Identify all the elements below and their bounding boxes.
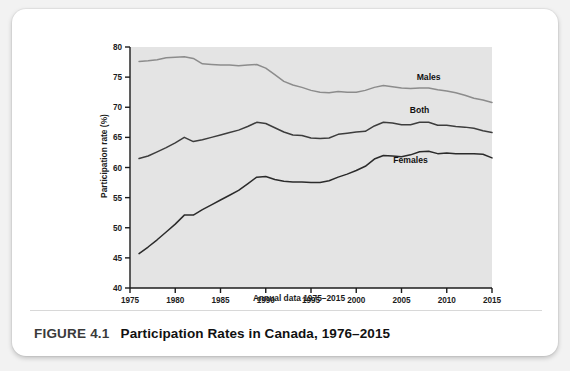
figure-title: Participation Rates in Canada, 1976–2015 — [121, 326, 391, 341]
series-label-males: Males — [417, 72, 441, 82]
x-tick-label: 2000 — [347, 296, 366, 305]
y-tick-label: 65 — [113, 133, 123, 142]
plot-background — [130, 47, 492, 288]
y-axis: 404550556065707580 — [113, 43, 130, 293]
x-tick-label: 2010 — [438, 296, 457, 305]
y-tick-label: 50 — [113, 224, 123, 233]
x-tick-label: 1980 — [166, 296, 185, 305]
y-tick-label: 75 — [113, 73, 123, 82]
x-tick-label: 1975 — [121, 296, 140, 305]
x-axis-title: Annual data 1975–2015 — [253, 293, 346, 303]
figure-card: 404550556065707580 197519801985199019952… — [12, 9, 558, 356]
figure-number: FIGURE 4.1 — [34, 326, 110, 341]
participation-rate-line-chart: 404550556065707580 197519801985199019952… — [12, 9, 558, 305]
figure-caption: FIGURE 4.1 Participation Rates in Canada… — [34, 320, 539, 346]
series-label-both: Both — [410, 105, 430, 115]
x-tick-label: 1985 — [211, 296, 230, 305]
y-tick-label: 70 — [113, 103, 123, 112]
x-tick-label: 2005 — [392, 296, 411, 305]
y-tick-label: 80 — [113, 43, 123, 52]
y-tick-label: 40 — [113, 284, 123, 293]
y-tick-label: 55 — [113, 194, 123, 203]
caption-divider — [30, 310, 542, 311]
series-label-females: Females — [393, 155, 428, 165]
x-tick-label: 2015 — [483, 296, 502, 305]
y-tick-label: 60 — [113, 164, 123, 173]
y-axis-title: Participation rate (%) — [99, 114, 109, 198]
chart-region: 404550556065707580 197519801985199019952… — [12, 9, 558, 305]
y-tick-label: 45 — [113, 254, 123, 263]
